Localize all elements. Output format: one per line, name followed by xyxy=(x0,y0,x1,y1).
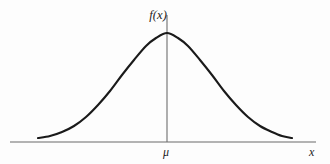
normal-distribution-figure: f(x) μ x xyxy=(0,0,330,164)
density-axis-label: f(x) xyxy=(149,9,167,22)
figure-background xyxy=(0,0,330,164)
x-axis-label: x xyxy=(309,146,314,158)
bell-curve-plot xyxy=(0,0,330,164)
mean-tick-label: μ xyxy=(163,146,169,158)
